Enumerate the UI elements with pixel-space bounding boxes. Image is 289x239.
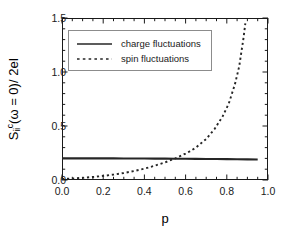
xtick-label: 1.0 [261,186,276,197]
xtick-label: 0.2 [96,186,111,197]
y-axis-title-superscript: c [5,124,15,128]
legend: charge fluctuations spin fluctuations [68,30,212,71]
legend-line-sample-solid [76,39,113,49]
y-axis-title-symbol: S [6,132,21,141]
figure: 0.0 0.2 0.4 0.6 0.8 1.0 0.0 0.5 1.0 1.5 … [0,0,289,239]
xtick-label: 0.8 [219,186,234,197]
legend-entry-charge-fluctuations: charge fluctuations [69,36,211,51]
legend-line-sample-dotted [76,54,113,64]
xtick-label: 0.6 [178,186,193,197]
ytick-label: 1.0 [51,67,66,78]
y-axis-title-denominator: / 2eI [6,58,21,83]
legend-entry-spin-fluctuations: spin fluctuations [69,51,211,66]
y-axis-title: Siic(ω = 0)/ 2eI [6,58,21,140]
x-axis-title: p [161,212,168,225]
y-axis-title-argument: (ω = 0) [6,83,21,124]
xtick-label: 0.0 [55,186,70,197]
ytick-label: 0.5 [51,121,66,132]
xtick-label: 0.4 [137,186,152,197]
y-axis-title-subscript: ii [12,128,22,131]
series-line-charge-fluctuations [62,158,258,159]
ytick-label: 0.0 [51,175,66,186]
legend-label: spin fluctuations [121,54,189,64]
legend-label: charge fluctuations [121,39,201,49]
ytick-label: 1.5 [51,13,66,24]
